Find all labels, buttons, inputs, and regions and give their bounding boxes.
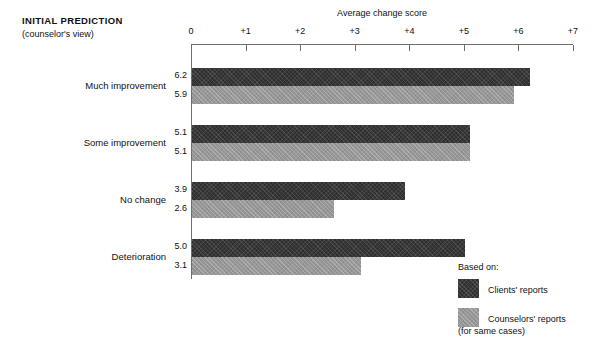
category-label: No change bbox=[18, 194, 166, 205]
bar-value-label-clients: 3.9 bbox=[163, 184, 187, 194]
bar-group: No change3.92.6 bbox=[0, 182, 595, 218]
bar-value-label-counselors: 5.1 bbox=[163, 146, 187, 156]
bar-group: Some improvement5.15.1 bbox=[0, 125, 595, 161]
legend: Based on: Clients' reports Counselors' r… bbox=[458, 262, 593, 346]
bar-counselors bbox=[192, 86, 514, 104]
bar-clients bbox=[192, 68, 530, 86]
bar-counselors bbox=[192, 257, 361, 275]
bar-group: Much improvement6.25.9 bbox=[0, 68, 595, 104]
bar-value-label-counselors: 5.9 bbox=[163, 89, 187, 99]
legend-swatch-clients-icon bbox=[458, 279, 479, 298]
chart-container: INITIAL PREDICTION (counselor's view) Av… bbox=[0, 0, 595, 348]
legend-title: Based on: bbox=[458, 262, 593, 272]
legend-label-counselors-main: Counselors' reports bbox=[488, 314, 566, 324]
category-label: Some improvement bbox=[18, 137, 166, 148]
legend-item-clients: Clients' reports bbox=[458, 279, 593, 300]
legend-swatch-counselors-icon bbox=[458, 308, 479, 327]
bar-counselors bbox=[192, 143, 470, 161]
legend-label-clients: Clients' reports bbox=[488, 283, 548, 295]
bar-value-label-clients: 6.2 bbox=[163, 70, 187, 80]
bar-value-label-counselors: 3.1 bbox=[163, 260, 187, 270]
legend-label-counselors-sub: (for same cases) bbox=[458, 326, 593, 338]
bar-clients bbox=[192, 239, 465, 257]
bar-value-label-clients: 5.0 bbox=[163, 241, 187, 251]
bar-clients bbox=[192, 125, 470, 143]
bar-counselors bbox=[192, 200, 334, 218]
bar-value-label-clients: 5.1 bbox=[163, 127, 187, 137]
bar-value-label-counselors: 2.6 bbox=[163, 203, 187, 213]
category-label: Deterioration bbox=[18, 251, 166, 262]
legend-item-counselors: Counselors' reports (for same cases) bbox=[458, 308, 593, 338]
bar-clients bbox=[192, 182, 405, 200]
category-label: Much improvement bbox=[18, 80, 166, 91]
